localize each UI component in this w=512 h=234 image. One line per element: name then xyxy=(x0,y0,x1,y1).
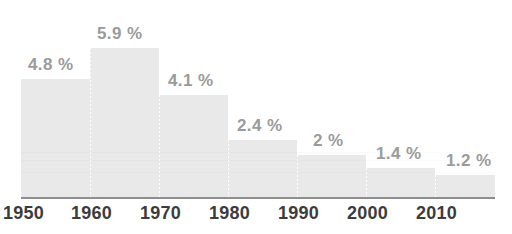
x-tick-1950: 1950 xyxy=(3,203,44,225)
bar-1960 xyxy=(90,48,159,198)
x-tick-1980: 1980 xyxy=(209,203,250,225)
bar-1950 xyxy=(21,79,90,198)
value-label-1970: 4.1 % xyxy=(168,72,213,89)
bar-divider xyxy=(159,95,160,198)
bar-divider xyxy=(228,140,229,198)
value-label-1990: 2 % xyxy=(313,132,344,149)
band-line xyxy=(21,152,495,153)
band-line xyxy=(21,172,495,173)
plot-area: 4.8 %5.9 %4.1 %2.4 %2 %1.4 %1.2 % xyxy=(0,0,512,199)
bar-1990 xyxy=(297,155,366,198)
bar-chart: 4.8 %5.9 %4.1 %2.4 %2 %1.4 %1.2 % 195019… xyxy=(0,0,512,234)
x-tick-2010: 2010 xyxy=(416,203,457,225)
value-label-1960: 5.9 % xyxy=(97,25,142,42)
x-axis-labels: 1950196019701980199020002010 xyxy=(0,203,512,234)
x-tick-1960: 1960 xyxy=(71,203,112,225)
bar-2010 xyxy=(435,175,495,198)
value-label-2000: 1.4 % xyxy=(376,145,421,162)
x-tick-2000: 2000 xyxy=(347,203,388,225)
value-label-1980: 2.4 % xyxy=(237,117,282,134)
bar-divider xyxy=(297,155,298,198)
bar-divider xyxy=(435,175,436,198)
x-tick-1970: 1970 xyxy=(140,203,181,225)
bar-1980 xyxy=(228,140,297,198)
band-line xyxy=(21,160,495,161)
value-label-1950: 4.8 % xyxy=(28,56,73,73)
bar-divider xyxy=(90,48,91,198)
x-axis-line xyxy=(21,197,495,199)
x-tick-1990: 1990 xyxy=(278,203,319,225)
bar-1970 xyxy=(159,95,228,198)
value-label-2010: 1.2 % xyxy=(446,152,491,169)
